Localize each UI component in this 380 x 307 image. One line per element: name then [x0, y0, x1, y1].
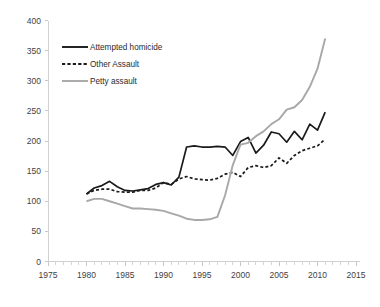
- x-tick-label: 1995: [193, 270, 212, 280]
- y-tick-label: 150: [27, 166, 41, 176]
- x-tick-label: 2005: [270, 270, 289, 280]
- legend-label-0: Attempted homicide: [90, 43, 163, 52]
- x-tick-label: 1975: [39, 270, 58, 280]
- chart-legend: Attempted homicideOther AssaultPetty ass…: [62, 43, 163, 86]
- y-tick-label: 350: [27, 46, 41, 56]
- x-tick-label: 1990: [154, 270, 173, 280]
- y-tick-label: 250: [27, 106, 41, 116]
- axes: [48, 21, 360, 262]
- chart-canvas: 050100150200250300350400 197519801985199…: [0, 0, 380, 307]
- y-tick-label: 400: [27, 16, 41, 26]
- x-axis-ticks: 197519801985199019952000200520102015: [39, 262, 366, 280]
- y-tick-label: 300: [27, 76, 41, 86]
- x-tick-label: 1980: [77, 270, 96, 280]
- y-tick-label: 50: [32, 226, 42, 236]
- line-chart: 050100150200250300350400 197519801985199…: [0, 0, 380, 307]
- x-tick-label: 2000: [231, 270, 250, 280]
- y-tick-label: 100: [27, 196, 41, 206]
- x-tick-label: 1985: [116, 270, 135, 280]
- x-tick-label: 2010: [308, 270, 327, 280]
- legend-label-1: Other Assault: [90, 60, 140, 69]
- x-tick-label: 2015: [347, 270, 366, 280]
- legend-label-2: Petty assault: [90, 77, 138, 86]
- y-tick-label: 0: [36, 257, 41, 267]
- y-tick-label: 200: [27, 136, 41, 146]
- series-line-attempted-homicide: [87, 112, 326, 194]
- y-axis-ticks: 050100150200250300350400: [27, 16, 48, 267]
